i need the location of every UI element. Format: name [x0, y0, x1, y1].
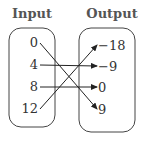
- mapping-diagram: Input Output 04812 −18−909: [0, 0, 144, 141]
- mapping-arrow: [40, 65, 97, 66]
- input-value: 0: [30, 35, 38, 50]
- input-value: 8: [30, 79, 38, 94]
- output-value: −9: [98, 59, 117, 74]
- input-header: Input: [12, 6, 52, 21]
- input-value: 12: [21, 101, 38, 116]
- input-value: 4: [30, 57, 38, 72]
- output-header: Output: [86, 6, 137, 21]
- output-value: 9: [98, 102, 106, 117]
- output-value: −18: [98, 38, 125, 53]
- output-value: 0: [98, 80, 106, 95]
